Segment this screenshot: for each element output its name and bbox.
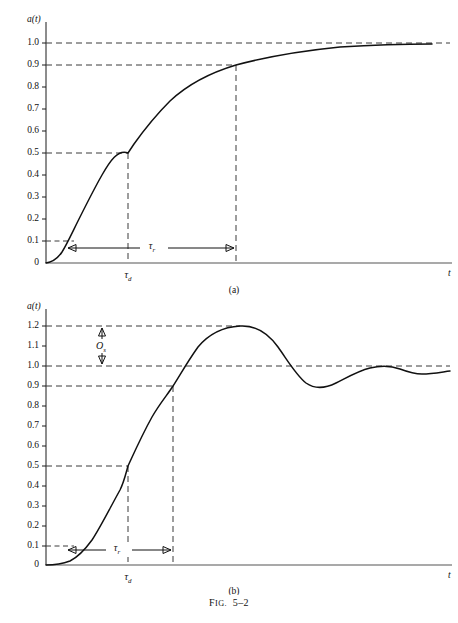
panel-label-b: (b) <box>228 586 239 595</box>
y-axis-title-a: a(t) <box>27 14 41 25</box>
overshoot-annotation-b: Os <box>88 328 116 364</box>
delay-time-label-b: τd <box>124 571 132 585</box>
tick-label-a-5: 0.6 <box>27 125 39 135</box>
chart-panel-b: 1.2 1.1 1.0 0.9 0.8 0.7 0.6 0.5 0.4 0.3 … <box>0 295 458 595</box>
tick-label-b-4: 0.9 <box>27 380 39 390</box>
tick-label-a-3: 0.8 <box>27 81 39 91</box>
chart-panel-a: 1.0 0.9 0.8 0.7 0.6 0.5 0.4 0.3 0.2 0.1 … <box>0 0 458 300</box>
tick-label-b-5: 0.8 <box>27 400 39 410</box>
y-ticks-b <box>42 326 46 546</box>
tick-label-a-9: 0.2 <box>27 213 39 223</box>
tick-label-b-10: 0.3 <box>27 500 39 510</box>
rise-time-annotation-b: τr <box>68 542 171 557</box>
y-axis-title-b: a(t) <box>27 301 41 312</box>
tick-label-a-8: 0.3 <box>27 191 39 201</box>
tick-label-b-11: 0.2 <box>27 520 39 530</box>
chart-a-svg: 1.0 0.9 0.8 0.7 0.6 0.5 0.4 0.3 0.2 0.1 … <box>0 0 458 300</box>
response-curve-b <box>46 326 450 565</box>
y-ticks-a <box>42 43 46 241</box>
caption-smallcaps: IG. <box>215 599 227 608</box>
caption-number: 5–2 <box>233 597 249 608</box>
chart-b-svg: 1.2 1.1 1.0 0.9 0.8 0.7 0.6 0.5 0.4 0.3 … <box>0 295 458 595</box>
tick-label-b-9: 0.4 <box>27 480 39 490</box>
tick-label-b-2: 1.1 <box>27 340 39 350</box>
response-curve-a <box>46 44 432 263</box>
x-axis-title-a: t <box>448 268 451 278</box>
x-axis-title-b: t <box>448 570 451 580</box>
delay-time-label-a: τd <box>124 269 132 283</box>
figure-5-2: 1.0 0.9 0.8 0.7 0.6 0.5 0.4 0.3 0.2 0.1 … <box>0 0 458 623</box>
tick-label-b-13: 0 <box>34 559 39 569</box>
tick-label-a-2: 0.9 <box>27 59 39 69</box>
tick-label-a-6: 0.5 <box>27 147 39 157</box>
tick-label-b-7: 0.6 <box>27 440 39 450</box>
tick-label-a-10: 0.1 <box>27 235 39 245</box>
tick-label-b-8: 0.5 <box>27 460 39 470</box>
rise-time-annotation-a: τr <box>68 240 234 255</box>
tick-label-a-1: 1.0 <box>27 37 39 47</box>
tick-label-b-3: 1.0 <box>27 360 39 370</box>
tick-label-b-6: 0.7 <box>27 420 39 430</box>
tick-label-a-4: 0.7 <box>27 103 39 113</box>
tick-label-a-11: 0 <box>34 257 39 267</box>
tick-label-b-12: 0.1 <box>27 540 39 550</box>
figure-caption: FIG. 5–2 <box>0 597 458 608</box>
tick-label-b-1: 1.2 <box>27 320 39 330</box>
tick-label-a-7: 0.4 <box>27 169 39 179</box>
